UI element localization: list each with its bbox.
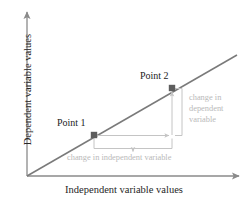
dependent-change-label: change in dependent variable bbox=[189, 93, 245, 125]
point-2-marker bbox=[169, 85, 175, 91]
point-1-marker bbox=[91, 132, 97, 138]
dependent-change-bracket bbox=[175, 89, 182, 136]
point-2-label: Point 2 bbox=[140, 71, 169, 82]
independent-change-bracket bbox=[94, 139, 172, 149]
regression-slope-diagram: Dependent variable values Independent va… bbox=[0, 0, 249, 202]
point-1-label: Point 1 bbox=[57, 118, 86, 129]
x-axis-label: Independent variable values bbox=[34, 184, 214, 195]
independent-change-label: change in independent variable bbox=[67, 153, 171, 162]
y-axis-label: Dependent variable values bbox=[22, 10, 33, 170]
